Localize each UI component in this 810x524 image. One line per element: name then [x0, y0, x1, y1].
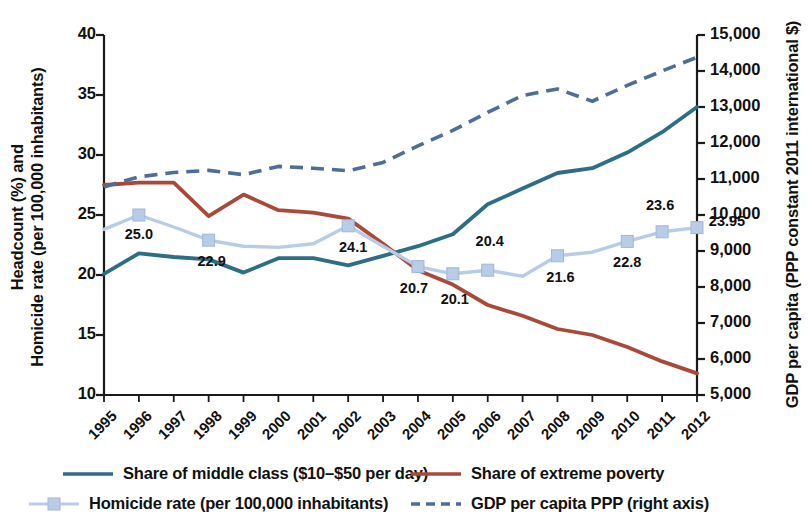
series-marker-homicide-rate — [203, 234, 215, 246]
legend-swatch-gdp_per_capita — [410, 497, 462, 511]
data-label-homicide-1998: 22.9 — [186, 253, 238, 269]
y-axis-left-tick-label: 15 — [38, 324, 96, 343]
y-axis-left-tick-label: 35 — [38, 84, 96, 103]
legend-label-gdp_per_capita: GDP per capita PPP (right axis) — [471, 494, 709, 513]
data-label-homicide-1996: 25.0 — [113, 226, 165, 242]
y-axis-right-tick-label: 11,000 — [710, 168, 790, 187]
series-marker-homicide-rate — [447, 268, 459, 280]
data-label-homicide-2011: 23.6 — [634, 197, 686, 213]
series-line-gdp_per_capita — [104, 57, 697, 187]
series-line-extreme_poverty — [104, 183, 697, 374]
y-axis-right-tick-label: 13,000 — [710, 96, 790, 115]
y-axis-right-tick-label: 6,000 — [710, 348, 790, 367]
series-marker-homicide-rate — [551, 250, 563, 262]
series-marker-homicide-rate — [342, 220, 354, 232]
legend-swatch-middle_class — [62, 467, 114, 481]
y-axis-left-tick-label: 20 — [38, 264, 96, 283]
legend-swatch-homicide_rate — [28, 497, 80, 511]
y-axis-right-tick-label: 7,000 — [710, 312, 790, 331]
chart-legend: Share of middle class ($10–$50 per day)S… — [0, 462, 810, 524]
y-axis-left-tick-label: 30 — [38, 144, 96, 163]
series-marker-homicide-rate — [621, 235, 633, 247]
data-label-homicide-2006: 20.4 — [464, 233, 516, 249]
series-marker-homicide-rate — [412, 261, 424, 273]
series-marker-homicide-rate — [133, 209, 145, 221]
legend-item-homicide_rate[interactable]: Homicide rate (per 100,000 inhabitants) — [28, 494, 388, 513]
legend-item-gdp_per_capita[interactable]: GDP per capita PPP (right axis) — [410, 494, 709, 513]
y-axis-right-tick-label: 5,000 — [710, 384, 790, 403]
y-axis-right-tick-label: 12,000 — [710, 132, 790, 151]
data-label-homicide-2008: 21.6 — [534, 269, 586, 285]
data-label-homicide-2002: 24.1 — [327, 239, 379, 255]
legend-label-homicide_rate: Homicide rate (per 100,000 inhabitants) — [89, 494, 388, 513]
y-axis-right-tick-label: 8,000 — [710, 276, 790, 295]
y-axis-right-tick-label: 14,000 — [710, 60, 790, 79]
data-label-homicide-2010: 22.8 — [601, 254, 653, 270]
data-label-homicide-2005: 20.1 — [429, 291, 481, 307]
series-marker-homicide-rate — [656, 226, 668, 238]
data-label-homicide-2012: 23.95 — [701, 213, 753, 229]
legend-item-extreme_poverty[interactable]: Share of extreme poverty — [410, 464, 664, 483]
y-axis-left-tick-label: 25 — [38, 204, 96, 223]
y-axis-right-tick-label: 9,000 — [710, 240, 790, 259]
y-axis-left-tick-label: 40 — [38, 24, 96, 43]
legend-label-middle_class: Share of middle class ($10–$50 per day) — [123, 464, 428, 483]
legend-item-middle_class[interactable]: Share of middle class ($10–$50 per day) — [62, 464, 428, 483]
chart-figure: Headcount (%) and Homicide rate (per 100… — [0, 0, 810, 524]
legend-label-extreme_poverty: Share of extreme poverty — [471, 464, 664, 483]
series-marker-homicide-rate — [482, 264, 494, 276]
y-axis-right-tick-label: 15,000 — [710, 24, 790, 43]
legend-swatch-extreme_poverty — [410, 467, 462, 481]
y-axis-left-tick-label: 10 — [38, 384, 96, 403]
